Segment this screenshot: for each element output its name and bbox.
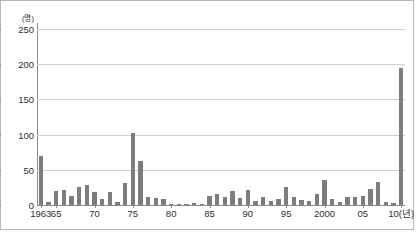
x-axis-tick-mark xyxy=(171,205,172,208)
bar xyxy=(62,190,66,205)
bar xyxy=(223,197,227,205)
bar xyxy=(399,68,403,205)
x-axis-tick-mark xyxy=(41,205,42,208)
bar xyxy=(361,196,365,205)
bar-chart: (명) 050100150200250 19636570758085909520… xyxy=(0,0,414,230)
x-axis-tick-label: 85 xyxy=(204,208,215,219)
bar xyxy=(161,199,165,205)
bar xyxy=(146,197,150,205)
x-axis-tick-mark xyxy=(210,205,211,208)
x-axis-tick-label: 70 xyxy=(89,208,100,219)
bar xyxy=(391,203,395,205)
bar xyxy=(238,198,242,205)
x-axis-tick-mark xyxy=(56,205,57,208)
bar xyxy=(322,180,326,205)
bar xyxy=(123,183,127,205)
bar xyxy=(384,202,388,205)
bar xyxy=(85,185,89,205)
bar-series xyxy=(37,29,405,205)
bar xyxy=(39,156,43,205)
x-axis-tick-mark xyxy=(325,205,326,208)
bar xyxy=(299,200,303,205)
bar xyxy=(54,191,58,205)
bar xyxy=(108,192,112,205)
y-axis-tick-mark xyxy=(0,99,1,100)
x-axis-tick-label: 05 xyxy=(358,208,369,219)
x-axis-tick-label: 1963 xyxy=(30,208,51,219)
x-axis-tick-mark xyxy=(133,205,134,208)
bar xyxy=(269,201,273,205)
x-axis-tick-label: 75 xyxy=(128,208,139,219)
bar xyxy=(184,204,188,205)
bar xyxy=(338,202,342,205)
bar xyxy=(276,199,280,205)
bar xyxy=(69,196,73,205)
bar xyxy=(154,198,158,205)
bar xyxy=(368,189,372,205)
bar xyxy=(246,190,250,205)
x-axis-tick-labels: 19636570758085909520000510(년) xyxy=(37,208,405,224)
bar xyxy=(315,194,319,205)
bar xyxy=(330,199,334,205)
plot-area xyxy=(37,29,405,205)
x-axis-tick-label: 80 xyxy=(166,208,177,219)
x-axis-tick-label: 90 xyxy=(243,208,254,219)
bar xyxy=(353,197,357,205)
y-axis-tick-mark xyxy=(0,170,1,171)
y-axis-tick-labels: 050100150200250 xyxy=(1,29,34,205)
bar xyxy=(115,202,119,205)
bar xyxy=(131,133,135,205)
bar xyxy=(261,197,265,205)
bar xyxy=(207,196,211,205)
x-axis-tick-mark xyxy=(286,205,287,208)
bar xyxy=(177,204,181,205)
bar xyxy=(292,197,296,205)
x-axis-tick-label: 65 xyxy=(51,208,62,219)
y-axis-tick-mark xyxy=(0,205,1,206)
bar xyxy=(230,191,234,205)
bar xyxy=(307,201,311,205)
y-axis-tick-label: 250 xyxy=(4,25,34,34)
x-axis-tick-mark xyxy=(363,205,364,208)
bar xyxy=(200,204,204,205)
bar xyxy=(253,201,257,205)
bar xyxy=(46,202,50,205)
x-axis-line xyxy=(37,205,405,206)
y-axis-unit-label: (명) xyxy=(1,15,34,23)
y-axis-tick-mark xyxy=(0,135,1,136)
x-axis-tick-label: 95 xyxy=(281,208,292,219)
bar xyxy=(345,197,349,205)
x-axis-tick-mark xyxy=(401,205,402,208)
x-axis-tick-label: 10(년) xyxy=(388,208,414,219)
bar xyxy=(284,187,288,205)
y-axis-tick-label: 50 xyxy=(4,166,34,175)
x-axis-tick-mark xyxy=(248,205,249,208)
y-axis-tick-label: 200 xyxy=(4,60,34,69)
y-axis-tick-label: 150 xyxy=(4,95,34,104)
y-axis-tick-mark xyxy=(0,64,1,65)
y-axis-tick-mark xyxy=(0,29,1,30)
y-axis-tick-label: 100 xyxy=(4,131,34,140)
bar xyxy=(138,161,142,205)
bar xyxy=(100,199,104,205)
x-axis-tick-mark xyxy=(95,205,96,208)
bar xyxy=(77,187,81,205)
bar xyxy=(376,182,380,205)
bar xyxy=(192,203,196,205)
bar xyxy=(215,194,219,205)
bar xyxy=(92,192,96,205)
x-axis-tick-label: 2000 xyxy=(314,208,335,219)
